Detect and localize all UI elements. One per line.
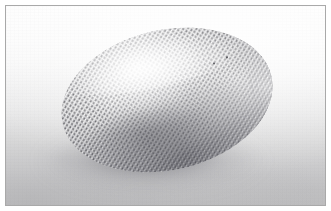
photo-figure xyxy=(0,0,331,211)
surface-fleck xyxy=(226,56,228,58)
photo-frame xyxy=(5,5,326,206)
